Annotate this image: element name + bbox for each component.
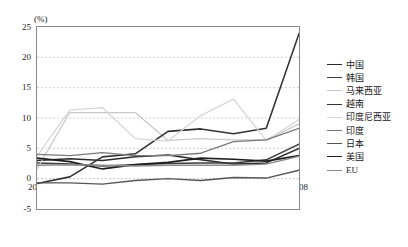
legend-color-swatch (327, 130, 342, 131)
legend-item[interactable]: 印度 (327, 124, 407, 137)
legend-item-label: 马来西亚 (346, 86, 382, 96)
legend-color-swatch (327, 170, 342, 171)
legend-color-swatch (327, 64, 342, 65)
line-chart: (%) 2520151050-5 20002001200220032004200… (0, 0, 408, 247)
legend-item[interactable]: 中国 (327, 58, 407, 71)
y-tick-label: 15 (5, 83, 31, 92)
legend-item-label: 美国 (346, 152, 364, 162)
legend-color-swatch (327, 143, 342, 144)
plot-svg (37, 27, 299, 209)
y-tick-label: 5 (5, 144, 31, 153)
legend-item-label: 日本 (346, 139, 364, 149)
legend-item[interactable]: EU (327, 164, 407, 177)
legend-item[interactable]: 日本 (327, 137, 407, 150)
legend-item[interactable]: 越南 (327, 98, 407, 111)
legend-item[interactable]: 印度尼西亚 (327, 111, 407, 124)
series-lines (37, 34, 299, 184)
legend-item-label: 中国 (346, 60, 364, 70)
legend-item[interactable]: 韩国 (327, 71, 407, 84)
legend-item-label: 印度尼西亚 (346, 112, 391, 122)
plot-area (36, 26, 300, 210)
series-line (37, 99, 299, 156)
legend-item-label: 韩国 (346, 73, 364, 83)
legend-color-swatch (327, 117, 342, 118)
legend-item-label: 越南 (346, 99, 364, 109)
legend-color-swatch (327, 90, 342, 91)
legend-color-swatch (327, 104, 342, 105)
legend-color-swatch (327, 156, 342, 157)
y-tick-label: 20 (5, 53, 31, 62)
legend-item-label: EU (346, 165, 358, 175)
legend: 中国韩国马来西亚越南印度尼西亚印度日本美国EU (327, 58, 407, 177)
legend-color-swatch (327, 77, 342, 78)
legend-item-label: 印度 (346, 126, 364, 136)
series-line (37, 156, 299, 169)
legend-item[interactable]: 美国 (327, 150, 407, 163)
y-tick-label: -5 (5, 205, 31, 214)
y-axis-unit-label: (%) (34, 14, 48, 24)
legend-item[interactable]: 马来西亚 (327, 84, 407, 97)
y-tick-label: 25 (5, 23, 31, 32)
y-tick-label: 10 (5, 114, 31, 123)
